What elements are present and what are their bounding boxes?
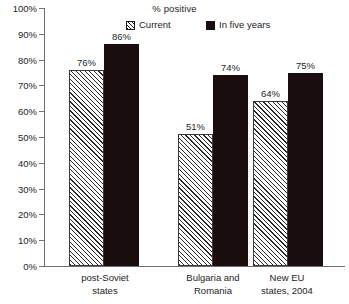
- y-axis-tick-label: 0%: [1, 261, 37, 272]
- y-axis-tick: [39, 8, 44, 9]
- bar-value-label: 64%: [247, 88, 294, 99]
- bar: [253, 101, 288, 266]
- bar: [213, 75, 248, 266]
- x-axis-category-label: post-Sovietstates: [55, 272, 155, 297]
- y-axis-tick: [39, 189, 44, 190]
- y-axis-tick: [39, 60, 44, 61]
- y-axis-tick: [39, 137, 44, 138]
- x-axis-category-label-line: post-Soviet: [55, 272, 155, 285]
- legend-item-current: Current: [126, 18, 171, 32]
- bar-value-label: 76%: [63, 57, 110, 68]
- bar-value-label: 74%: [207, 62, 254, 73]
- y-axis-line: [44, 8, 45, 267]
- bar: [288, 73, 323, 267]
- y-axis-tick-label: 100%: [1, 3, 37, 14]
- y-axis-tick-label: 80%: [1, 54, 37, 65]
- chart-title: % positive: [0, 3, 349, 14]
- legend-label-current: Current: [139, 20, 171, 30]
- y-axis-tick-label: 30%: [1, 183, 37, 194]
- bar-value-label: 75%: [282, 60, 329, 71]
- y-axis-tick: [39, 163, 44, 164]
- bar: [104, 44, 139, 266]
- y-axis-tick-label: 10%: [1, 235, 37, 246]
- y-axis-tick-label: 60%: [1, 106, 37, 117]
- legend-item-in-five-years: In five years: [206, 18, 270, 32]
- y-axis-tick: [39, 266, 44, 267]
- legend-label-in-five-years: In five years: [219, 20, 270, 30]
- y-axis-tick: [39, 34, 44, 35]
- y-axis-tick: [39, 85, 44, 86]
- bar-chart: % positive Current In five years 100%90%…: [0, 0, 349, 304]
- y-axis-tick-label: 90%: [1, 28, 37, 39]
- y-axis-tick-label: 50%: [1, 132, 37, 143]
- y-axis-tick-label: 40%: [1, 157, 37, 168]
- bar-value-label: 51%: [172, 121, 219, 132]
- y-axis-tick-label: 70%: [1, 80, 37, 91]
- bar: [69, 70, 104, 266]
- x-axis-category-label-line: New EU: [237, 272, 337, 285]
- x-axis-category-label-line: states: [55, 285, 155, 298]
- hatched-swatch-icon: [126, 21, 135, 30]
- bar-value-label: 86%: [98, 31, 145, 42]
- x-axis-line: [44, 266, 345, 267]
- bar: [178, 134, 213, 266]
- x-axis-category-label: New EUstates, 2004: [237, 272, 337, 297]
- y-axis-tick: [39, 240, 44, 241]
- y-axis-tick: [39, 214, 44, 215]
- chart-legend: Current In five years: [100, 18, 300, 32]
- x-axis-category-label-line: states, 2004: [237, 285, 337, 298]
- solid-swatch-icon: [206, 21, 215, 30]
- y-axis-tick: [39, 111, 44, 112]
- y-axis-tick-label: 20%: [1, 209, 37, 220]
